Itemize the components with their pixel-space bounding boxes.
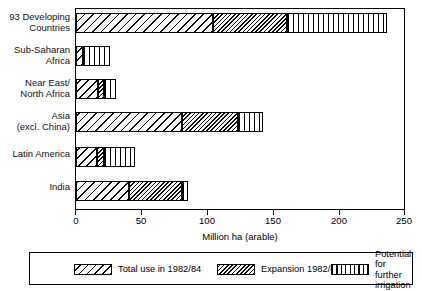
bars-container: [76, 9, 404, 209]
bar-segment-potential: [104, 79, 116, 99]
legend-entry-potential: Potential for further irrigation: [331, 253, 412, 286]
x-axis-tick-label: 150: [265, 215, 281, 227]
bar-segment-potential: [182, 181, 189, 201]
bar-segment-total-use: [76, 112, 182, 132]
bar-segment-potential: [238, 112, 263, 132]
bar-segment-total-use: [76, 13, 213, 33]
bar-segment-expansion: [182, 112, 239, 132]
x-axis-tick-label: 200: [331, 215, 347, 227]
x-axis-tick-label: 100: [199, 215, 215, 227]
plot-area: [75, 8, 405, 210]
y-axis-label-near-east-north-africa: Near East/ North Africa: [0, 78, 70, 99]
legend-swatch-potential-icon: [331, 264, 369, 275]
bar-segment-potential: [287, 13, 387, 33]
bar-segment-total-use: [76, 147, 97, 167]
y-axis-label-developing-countries: 93 Developing Countries: [0, 12, 70, 33]
x-axis-title: Million ha (arable): [75, 231, 405, 242]
bar-segment-expansion: [129, 181, 182, 201]
bar-segment-expansion: [213, 13, 287, 33]
bar-segment-potential: [104, 147, 136, 167]
bar-segment-total-use: [76, 79, 98, 99]
legend-label-total-use: Total use in 1982/84: [118, 264, 201, 275]
chart-legend: Total use in 1982/84 Expansion 1982/84-2…: [29, 252, 413, 285]
y-axis-category-labels: 93 Developing Countries Sub-Saharan Afri…: [0, 8, 70, 210]
x-axis-tick-label: 250: [396, 215, 412, 227]
y-axis-label-asia-excl-china: Asia (excl. China): [0, 111, 70, 132]
x-axis-tick-label: 50: [136, 215, 147, 227]
x-axis-tick-labels: 0 50 100 150 200 250: [0, 215, 422, 229]
y-axis-label-india: India: [0, 182, 70, 193]
legend-swatch-total-use-icon: [74, 264, 112, 275]
x-axis-tick-label: 0: [73, 215, 78, 227]
bar-segment-potential: [83, 46, 111, 66]
legend-swatch-expansion-icon: [217, 264, 255, 275]
legend-label-potential: Potential for further irrigation: [375, 249, 412, 291]
bar-segment-total-use: [76, 181, 129, 201]
bar-segment-total-use: [76, 46, 83, 66]
y-axis-label-latin-america: Latin America: [0, 149, 70, 160]
bar-segment-expansion: [97, 147, 104, 167]
legend-entry-total-use: Total use in 1982/84: [74, 253, 201, 286]
y-axis-label-sub-saharan-africa: Sub-Saharan Africa: [0, 45, 70, 66]
